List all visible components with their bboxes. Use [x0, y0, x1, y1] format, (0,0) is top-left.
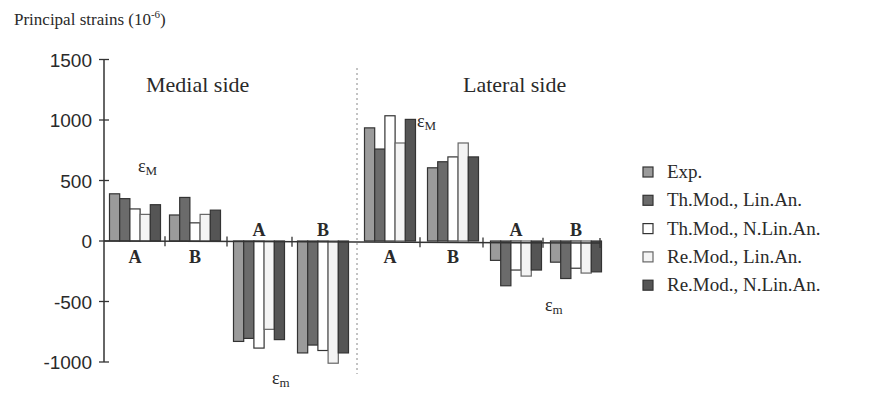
- y-tick-label: 500: [60, 171, 92, 192]
- bar: [385, 116, 395, 241]
- y-tick-label: 1500: [50, 50, 92, 71]
- bar: [531, 241, 541, 270]
- category-label: A: [384, 247, 397, 267]
- bar: [298, 241, 308, 353]
- bar: [551, 241, 561, 262]
- epsilon-max-label-lateral: εM: [417, 111, 437, 133]
- bar: [511, 241, 521, 270]
- medial-side-title: Medial side: [146, 72, 249, 97]
- bar: [150, 205, 160, 241]
- bar: [338, 241, 348, 353]
- category-label: B: [317, 220, 329, 240]
- bar: [110, 194, 120, 241]
- bar: [180, 197, 190, 241]
- y-axis: 150010005000-500-1000: [43, 50, 109, 374]
- bar: [561, 241, 571, 279]
- bar: [140, 214, 150, 241]
- y-tick-label: 0: [81, 231, 92, 252]
- legend: Exp.Th.Mod., Lin.An.Th.Mod., N.Lin.An.Re…: [643, 161, 821, 295]
- category-label: A: [510, 220, 523, 240]
- bar: [234, 241, 244, 341]
- bar: [395, 143, 405, 241]
- bar: [170, 215, 180, 241]
- bar: [468, 157, 478, 241]
- principal-strains-bar-chart: Principal strains (10-6) 150010005000-50…: [0, 0, 892, 401]
- bar: [210, 210, 220, 241]
- legend-label: Re.Mod., N.Lin.An.: [667, 274, 821, 295]
- bar: [581, 241, 591, 273]
- bar: [190, 223, 200, 241]
- bar: [428, 168, 438, 241]
- legend-swatch: [643, 195, 653, 205]
- category-label: A: [253, 220, 266, 240]
- bar: [130, 209, 140, 241]
- bar: [244, 241, 254, 338]
- category-label: B: [189, 247, 201, 267]
- epsilon-min-label-lateral: εm: [545, 295, 563, 317]
- category-label: B: [447, 247, 459, 267]
- bar: [318, 241, 328, 351]
- legend-label: Exp.: [667, 161, 702, 182]
- bar: [491, 241, 501, 260]
- legend-swatch: [643, 280, 653, 290]
- lateral-side-title: Lateral side: [463, 72, 566, 97]
- bar: [264, 241, 274, 329]
- legend-label: Th.Mod., Lin.An.: [667, 189, 802, 210]
- bar: [254, 241, 264, 348]
- y-tick-label: -1000: [43, 352, 92, 373]
- bar: [274, 241, 284, 340]
- category-label: B: [570, 220, 582, 240]
- bar: [458, 143, 468, 241]
- legend-swatch: [643, 224, 653, 234]
- epsilon-min-label-medial: εm: [272, 368, 290, 390]
- bar: [308, 241, 318, 345]
- bar: [501, 241, 511, 286]
- bar: [120, 199, 130, 241]
- y-tick-label: 1000: [50, 110, 92, 131]
- bar: [521, 241, 531, 276]
- bar: [571, 241, 581, 268]
- bar: [328, 241, 338, 363]
- legend-swatch: [643, 167, 653, 177]
- bar: [438, 162, 448, 241]
- legend-label: Th.Mod., N.Lin.An.: [667, 218, 821, 239]
- bar: [405, 119, 415, 241]
- bar: [200, 214, 210, 241]
- bar: [365, 128, 375, 241]
- bar: [448, 157, 458, 241]
- category-label: A: [129, 247, 142, 267]
- bar: [375, 149, 385, 241]
- legend-swatch: [643, 252, 653, 262]
- bar-series: [110, 116, 602, 363]
- y-tick-label: -500: [54, 292, 92, 313]
- legend-label: Re.Mod., Lin.An.: [667, 246, 802, 267]
- epsilon-max-label-medial: εM: [138, 156, 158, 178]
- y-axis-title: Principal strains (10-6): [14, 8, 166, 29]
